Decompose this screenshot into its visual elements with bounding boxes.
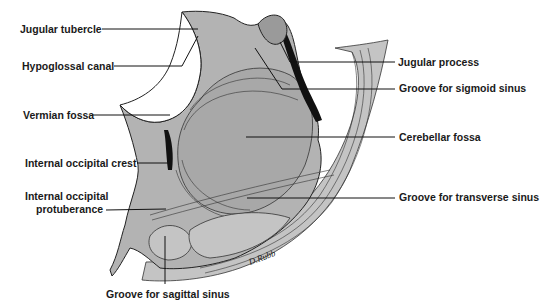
label-jugular-tubercle: Jugular tubercle [20,23,102,35]
lower-lobe-left [149,226,192,261]
label-hypoglossal-canal: Hypoglossal canal [22,60,114,72]
label-cerebellar-fossa: Cerebellar fossa [399,131,481,143]
label-internal-occipital-protuberance-line1: Internal occipital [25,190,109,202]
label-internal-occipital-crest: Internal occipital crest [25,157,137,169]
label-vermian-fossa: Vermian fossa [23,109,94,121]
label-groove-sigmoid-sinus: Groove for sigmoid sinus [399,82,526,94]
label-internal-occipital-protuberance-line2: protuberance [36,203,103,215]
label-groove-sagittal-sinus: Groove for sagittal sinus [106,288,230,300]
label-groove-transverse-sinus: Groove for transverse sinus [399,191,539,203]
occipital-bone-diagram: D.Rubb Jugular tubercle Hypoglossal cana… [0,0,546,306]
label-jugular-process: Jugular process [398,56,479,68]
